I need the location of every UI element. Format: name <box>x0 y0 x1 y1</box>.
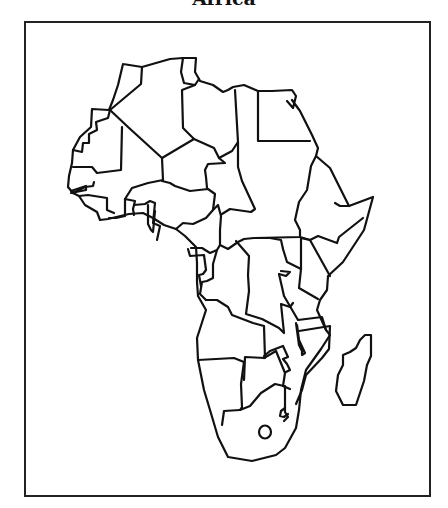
border-mozambique <box>296 326 330 404</box>
border-rwanda <box>279 271 290 276</box>
border-namibia-sa <box>222 410 240 425</box>
border-botswana <box>240 362 284 410</box>
africa-outline-map <box>0 0 448 508</box>
border-kenya-tanzania <box>299 269 318 299</box>
border-mauritania-mali <box>73 127 122 173</box>
border-nigeria <box>162 181 215 229</box>
border-mali-niger <box>125 158 163 199</box>
border-morocco <box>110 67 142 110</box>
border-niger-chad <box>205 158 225 188</box>
lesotho <box>259 426 271 439</box>
border-gambia <box>71 186 86 193</box>
border-zambia <box>264 346 290 372</box>
border-angola <box>206 300 265 380</box>
continent-outline <box>68 58 373 461</box>
border-algeria <box>110 85 195 158</box>
border-malawi <box>296 323 305 355</box>
border-uganda-kenya <box>283 238 330 276</box>
border-swaziland <box>280 408 288 417</box>
border-sudan-ethiopia <box>255 156 316 238</box>
madagascar <box>336 335 371 405</box>
border-car <box>220 238 283 249</box>
border-libya <box>194 90 238 158</box>
border-angola-namibia <box>198 358 244 362</box>
